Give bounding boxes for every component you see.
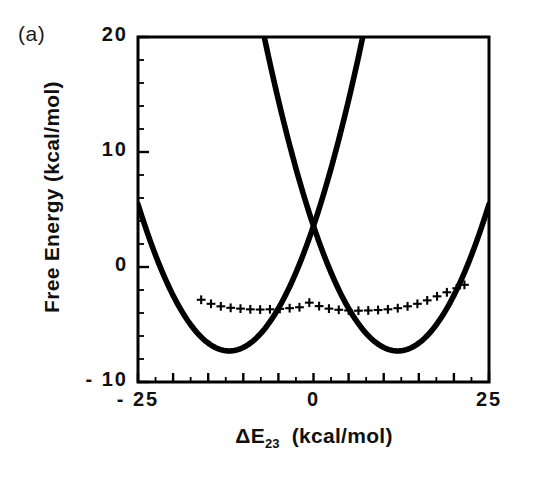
free-energy-figure: (a) Free Energy (kcal/mol) ΔE23 (kcal/mo… — [0, 0, 533, 498]
plot-canvas — [0, 0, 533, 498]
tick-marks — [138, 37, 489, 382]
series-adiabatic-ground-surface — [197, 280, 469, 315]
curves-group — [138, 0, 489, 351]
plot-frame — [138, 37, 489, 382]
